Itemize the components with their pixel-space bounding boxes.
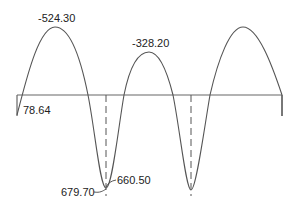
label-trough-679: 679.70 — [61, 186, 95, 198]
label-peak-left: -524.30 — [38, 12, 75, 24]
label-end-left: 78.64 — [23, 104, 51, 116]
leader-679 — [94, 189, 106, 192]
moment-diagram: -524.30 -328.20 78.64 679.70 660.50 — [0, 0, 294, 206]
moment-curve — [17, 27, 282, 190]
label-trough-660: 660.50 — [117, 174, 151, 186]
label-peak-middle: -328.20 — [132, 37, 169, 49]
